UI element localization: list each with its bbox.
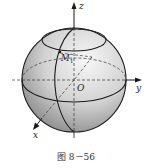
sphere-diagram: z y x O M1 (0, 0, 152, 168)
x-axis-label: x (33, 130, 38, 140)
x-axis-arrow-icon (33, 123, 40, 131)
y-axis-label: y (135, 83, 142, 93)
origin-label: O (77, 83, 85, 93)
z-axis-label: z (78, 1, 84, 11)
z-axis-arrow-icon (72, 2, 77, 9)
figure-caption: 图 8－56 (0, 150, 152, 163)
y-axis-arrow-icon (135, 78, 142, 83)
